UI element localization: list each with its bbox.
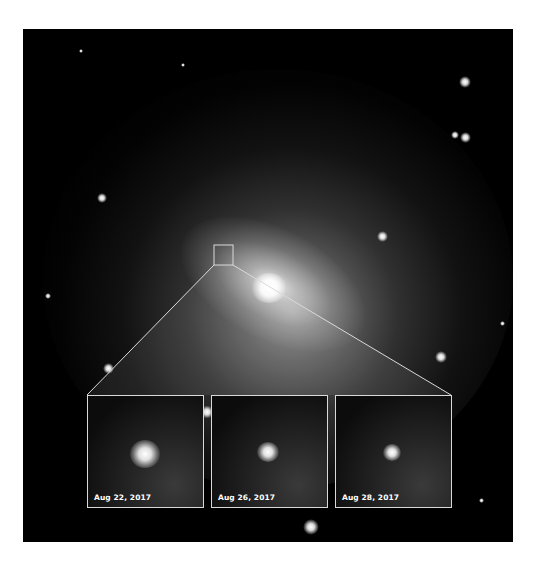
star xyxy=(460,132,471,143)
inset-panel-aug-22: Aug 22, 2017 xyxy=(87,395,204,508)
star xyxy=(459,76,471,88)
transient-spot xyxy=(130,440,160,468)
galaxy-core xyxy=(251,273,287,303)
star xyxy=(479,498,484,503)
panel-date-label: Aug 28, 2017 xyxy=(342,493,399,502)
star xyxy=(181,63,185,67)
star xyxy=(103,363,114,374)
star xyxy=(45,293,51,299)
transient-spot xyxy=(257,442,279,462)
star xyxy=(377,231,388,242)
star xyxy=(451,131,459,139)
inset-panel-aug-28: Aug 28, 2017 xyxy=(335,395,452,508)
star xyxy=(303,519,319,535)
star xyxy=(97,193,107,203)
star xyxy=(435,351,447,363)
panel-date-label: Aug 26, 2017 xyxy=(218,493,275,502)
transient-spot xyxy=(383,444,401,461)
star xyxy=(79,49,83,53)
inset-panel-aug-26: Aug 26, 2017 xyxy=(211,395,328,508)
star xyxy=(500,321,505,326)
panel-date-label: Aug 22, 2017 xyxy=(94,493,151,502)
